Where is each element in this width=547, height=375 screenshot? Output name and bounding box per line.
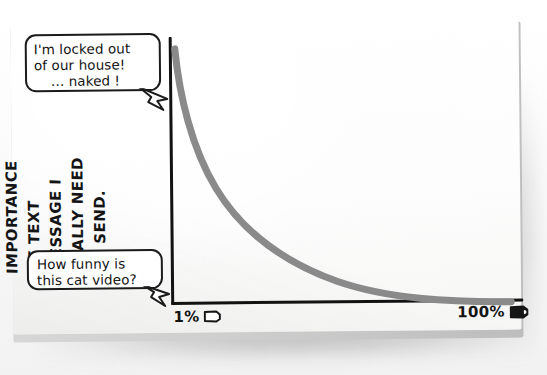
speech-bubble-top-line-1: I'm locked out	[34, 40, 153, 57]
card-content: I'm locked out of our house! ... naked !…	[11, 19, 522, 335]
speech-bubble-top-tail	[137, 85, 173, 113]
x-tick-max-label: 100%	[457, 303, 505, 321]
x-tick-max: 100%	[457, 302, 531, 321]
battery-empty-icon	[203, 309, 223, 323]
y-axis-label-line-5: TO SEND.	[87, 58, 111, 274]
y-axis-label: IMPORTANCE OF TEXT MESSAGE I REALLY NEED…	[6, 58, 104, 274]
battery-full-icon	[509, 304, 531, 319]
cartoon-chart-photo: I'm locked out of our house! ... naked !…	[0, 0, 547, 375]
y-axis-label-line-1: IMPORTANCE	[0, 58, 23, 274]
importance-decay-curve	[169, 34, 524, 305]
speech-bubble-bottom-line-2: this cat video?	[37, 271, 155, 288]
y-axis-label-line-3: MESSAGE I	[43, 58, 67, 274]
y-axis-label-line-2: OF TEXT	[21, 58, 45, 274]
x-tick-min: 1%	[173, 307, 223, 325]
x-tick-min-label: 1%	[173, 308, 199, 326]
plot-area	[169, 34, 524, 305]
y-axis-label-line-4: REALLY NEED	[65, 58, 89, 274]
speech-bubble-bottom-line-1: How funny is	[37, 255, 155, 272]
